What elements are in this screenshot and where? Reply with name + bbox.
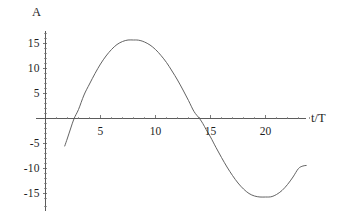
y-axis-ticks [43,34,48,207]
y-tick-label: 10 [28,63,40,75]
y-tick-label: 15 [28,38,40,50]
x-axis-title: t/T [311,112,326,125]
y-tick-label: 5 [34,88,40,100]
x-tick-label: 15 [205,126,217,138]
y-tick-label: -15 [24,188,40,200]
y-tick-label: -5 [30,138,40,150]
y-tick-label: -10 [24,163,40,175]
x-tick-label: 5 [98,126,104,138]
y-axis-title: A [32,6,41,19]
axes-group [36,31,306,211]
x-tick-label: 10 [150,126,162,138]
plot-canvas [0,0,342,220]
x-tick-label: 20 [260,126,272,138]
chart-figure: 15105-5-10-15 5101520 A t/T [0,0,342,220]
